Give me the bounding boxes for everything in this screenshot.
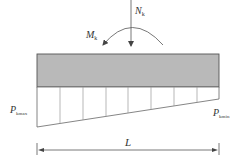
axial-load-label: Nk xyxy=(134,5,145,17)
length-label: L xyxy=(124,136,131,148)
moment-label: Mk xyxy=(85,29,97,41)
pressure-max-label: Pkmax xyxy=(9,104,28,116)
moment-arc-arrow xyxy=(103,28,163,46)
pressure-min-label: Pkmin xyxy=(212,107,230,119)
pressure-distribution xyxy=(37,87,219,127)
foundation-pressure-diagram: Nk Mk Pkmax Pkmin L xyxy=(0,0,241,166)
foundation-beam xyxy=(37,54,219,87)
